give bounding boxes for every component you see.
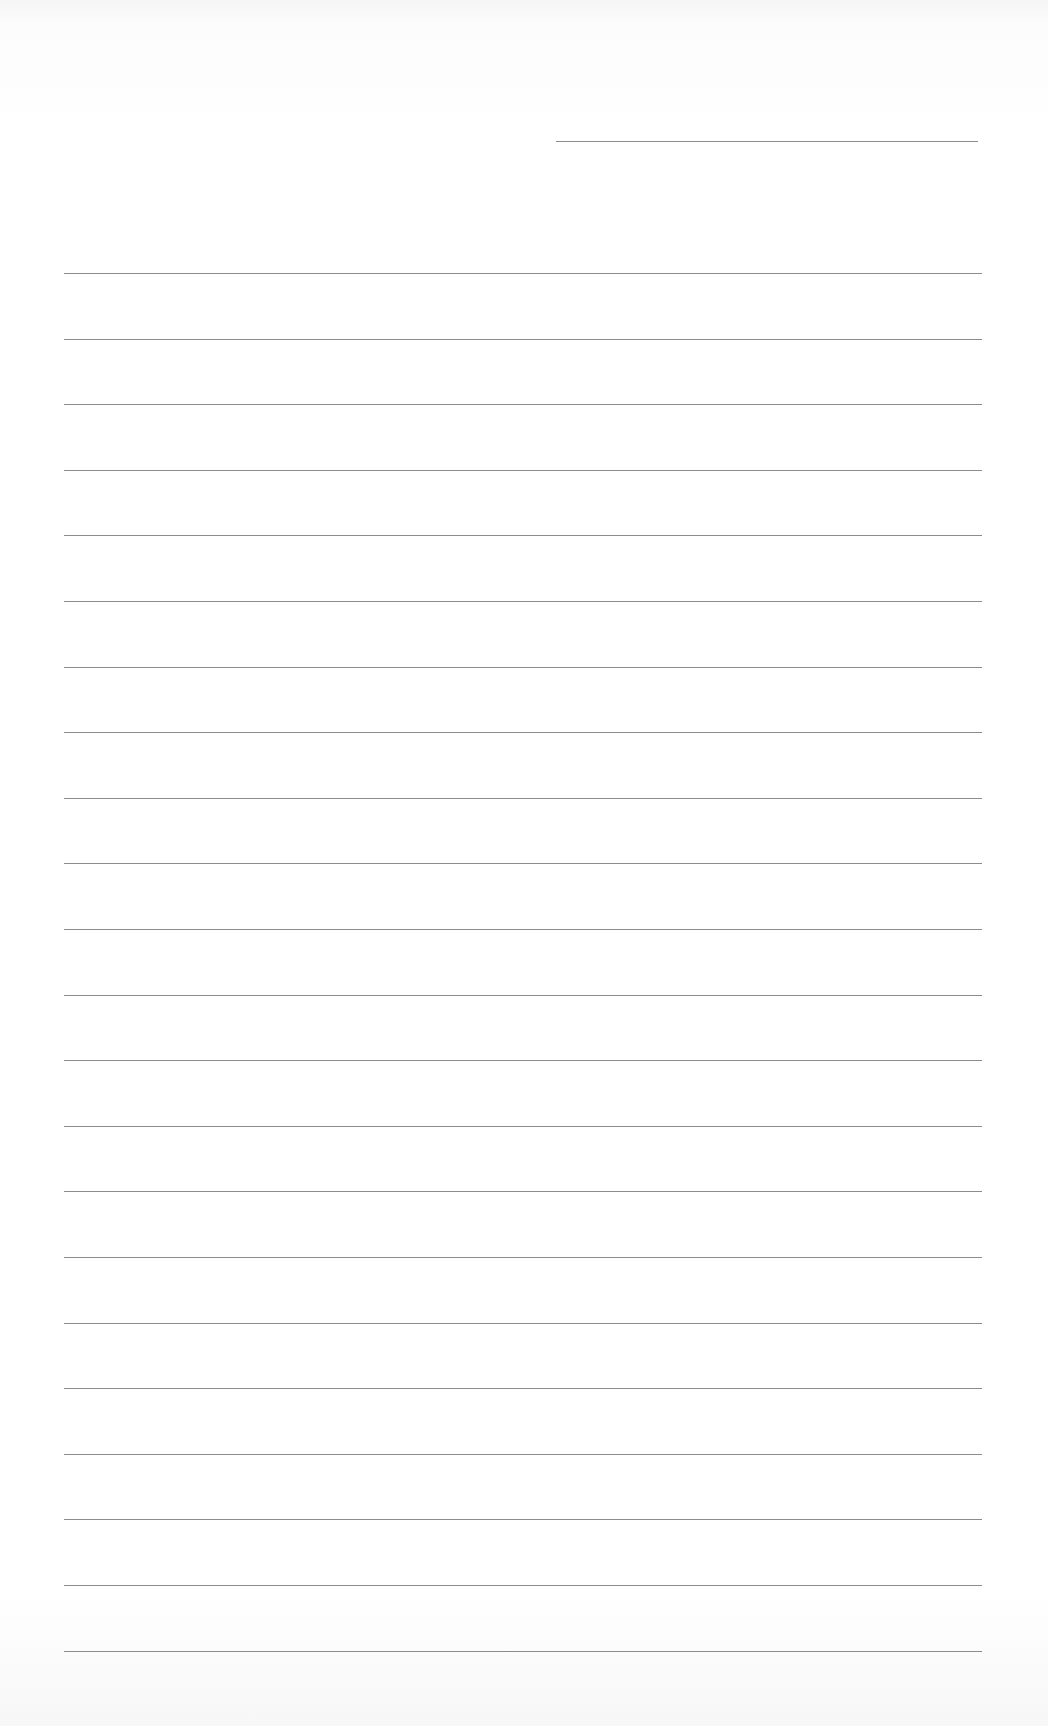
ruled-line <box>64 601 982 602</box>
ruled-line <box>64 1060 982 1061</box>
ruled-line <box>64 535 982 536</box>
ruled-line <box>64 1454 982 1455</box>
ruled-line <box>64 339 982 340</box>
ruled-line <box>64 1651 982 1652</box>
ruled-line <box>64 863 982 864</box>
date-line <box>556 141 978 142</box>
ruled-line <box>64 798 982 799</box>
ruled-line <box>64 1191 982 1192</box>
ruled-line <box>64 1323 982 1324</box>
lined-paper-sheet <box>0 0 1048 1726</box>
ruled-line <box>64 732 982 733</box>
ruled-line <box>64 1388 982 1389</box>
ruled-line <box>64 1585 982 1586</box>
ruled-line <box>64 929 982 930</box>
ruled-line <box>64 995 982 996</box>
ruled-line <box>64 667 982 668</box>
ruled-line <box>64 1519 982 1520</box>
ruled-line <box>64 1126 982 1127</box>
ruled-line <box>64 273 982 274</box>
top-edge-shadow <box>0 0 1048 24</box>
ruled-line <box>64 470 982 471</box>
ruled-line <box>64 1257 982 1258</box>
ruled-line <box>64 404 982 405</box>
